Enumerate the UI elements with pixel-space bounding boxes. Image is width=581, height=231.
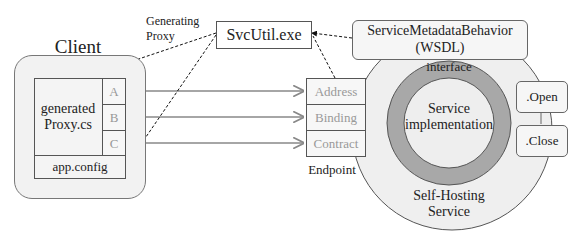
self-hosting-line2: Service xyxy=(404,204,494,219)
svcutil-box: SvcUtil.exe xyxy=(216,21,312,49)
metadata-line1: ServiceMetadataBehavior xyxy=(353,23,527,40)
proxy-slot-c: C xyxy=(102,130,126,157)
proxy-slot-b: B xyxy=(102,104,126,131)
proxy-slot-a: A xyxy=(102,78,126,105)
close-method-box: .Close xyxy=(516,125,568,157)
generating-label-2: Proxy xyxy=(146,30,175,43)
service-impl-line2: implementation xyxy=(399,117,499,132)
app-config-box: app.config xyxy=(34,155,126,179)
generating-label-1: Generating xyxy=(146,15,199,28)
metadata-line2: (WSDL) xyxy=(353,40,527,57)
open-method-box: .Open xyxy=(516,81,568,113)
service-impl-line1: Service xyxy=(404,101,494,116)
self-hosting-line1: Self-Hosting xyxy=(404,188,494,203)
proxy-label-line1: generated xyxy=(34,101,102,116)
endpoint-title: Endpoint xyxy=(296,163,368,177)
endpoint-binding: Binding xyxy=(306,104,366,131)
endpoint-address: Address xyxy=(306,78,366,105)
service-metadata-behavior-box: ServiceMetadataBehavior (WSDL) xyxy=(352,20,528,60)
proxy-label-line2: Proxy.cs xyxy=(34,117,102,132)
interface-label: interface xyxy=(409,60,489,74)
endpoint-contract: Contract xyxy=(306,130,366,157)
